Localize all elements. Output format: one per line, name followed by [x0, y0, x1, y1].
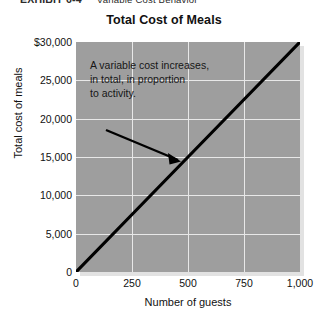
annotation-arrow [106, 130, 181, 165]
y-tick-label: 5,000 [16, 228, 72, 239]
y-tick-label: 25,000 [16, 75, 72, 86]
annotation-line: to activity. [90, 86, 230, 100]
annotation-line: in total, in proportion [90, 72, 230, 86]
annotation-text: A variable cost increases, in total, in … [90, 58, 230, 101]
x-tick-label: 250 [102, 277, 162, 289]
y-tick-label: $30,000 [16, 37, 72, 48]
x-tick-label: 1,000 [270, 277, 328, 289]
exhibit-caption: Variable Cost Behavior [85, 0, 198, 5]
x-tick-label: 750 [214, 277, 274, 289]
y-tick-label: 10,000 [16, 190, 72, 201]
annotation-line: A variable cost increases, [90, 58, 230, 72]
y-tick-label: 0 [16, 267, 72, 278]
y-tick-label: 20,000 [16, 113, 72, 124]
x-tick-label: 0 [46, 277, 106, 289]
x-axis-title: Number of guests [76, 296, 300, 308]
x-axis-tick-labels: 0 250 500 750 1,000 [0, 277, 328, 293]
x-tick-label: 500 [158, 277, 218, 289]
y-tick-label: 15,000 [16, 152, 72, 163]
